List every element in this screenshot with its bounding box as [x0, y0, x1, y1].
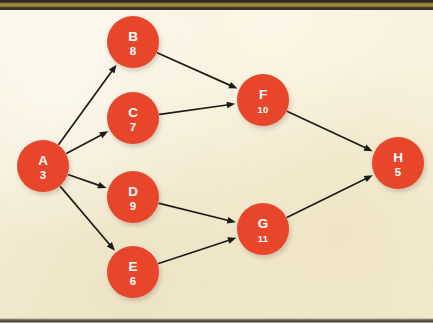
node-value-f: 10 — [257, 104, 268, 115]
edge-f-to-h — [287, 111, 364, 147]
edge-d-to-g — [159, 203, 227, 220]
edge-a-to-e — [60, 187, 109, 245]
node-letter-e: E — [128, 259, 137, 274]
node-value-g: 11 — [258, 233, 269, 244]
bottom-border-rule — [0, 318, 433, 323]
node-value-a: 3 — [40, 169, 46, 181]
arrowhead-g-to-h — [364, 175, 373, 182]
arrowhead-b-to-f — [228, 82, 237, 89]
node-g[interactable]: G11 — [237, 203, 291, 258]
graph-diagram: A3B8C7D9E6F10G11H5 — [0, 0, 433, 323]
figure-canvas: A3B8C7D9E6F10G11H5 — [0, 0, 433, 323]
edge-b-to-f — [158, 53, 230, 85]
edge-a-to-c — [67, 135, 101, 153]
arrowhead-a-to-c — [99, 131, 108, 138]
node-h[interactable]: H5 — [372, 137, 426, 192]
edge-g-to-h — [287, 179, 365, 217]
node-letter-f: F — [259, 87, 267, 102]
arrowhead-f-to-h — [363, 144, 372, 151]
edge-layer — [59, 53, 373, 264]
node-value-h: 5 — [395, 166, 402, 178]
arrowhead-c-to-f — [226, 102, 235, 109]
node-e[interactable]: E6 — [107, 246, 161, 301]
edge-e-to-g — [159, 240, 229, 263]
node-value-c: 7 — [130, 121, 136, 133]
node-f[interactable]: F10 — [237, 74, 291, 129]
top-border-band — [0, 0, 433, 10]
node-letter-g: G — [258, 216, 269, 231]
node-letter-b: B — [128, 29, 138, 44]
node-a[interactable]: A3 — [17, 140, 71, 195]
node-value-b: 8 — [130, 45, 137, 57]
node-letter-d: D — [128, 184, 138, 199]
node-layer: A3B8C7D9E6F10G11H5 — [17, 16, 426, 301]
node-value-e: 6 — [130, 275, 136, 287]
arrowhead-a-to-b — [109, 65, 117, 74]
node-letter-h: H — [393, 150, 403, 165]
arrowhead-d-to-g — [227, 217, 236, 224]
node-c[interactable]: C7 — [107, 92, 161, 147]
node-letter-a: A — [38, 153, 48, 168]
arrowhead-a-to-d — [97, 182, 106, 188]
node-value-d: 9 — [130, 200, 136, 212]
node-b[interactable]: B8 — [107, 16, 161, 71]
node-letter-c: C — [128, 105, 138, 120]
edge-c-to-f — [160, 105, 227, 114]
node-d[interactable]: D9 — [107, 171, 161, 226]
arrowhead-e-to-g — [227, 237, 236, 243]
edge-a-to-d — [69, 175, 99, 185]
